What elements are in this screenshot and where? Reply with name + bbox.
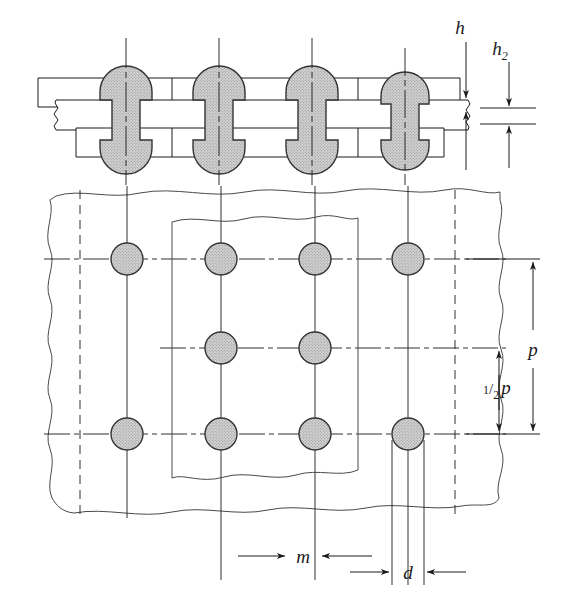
dimension-half-p-denominator: 2 [493,388,499,402]
plan-rivet-hole [111,418,143,450]
drawing-svg: h h2 [0,0,571,609]
engineering-drawing-canvas: h h2 [0,0,571,609]
plan-rivet-hole [205,418,237,450]
dimension-h2-subscript: 2 [502,49,508,63]
plan-rivet-hole [392,243,424,275]
dimension-h-label: h [455,17,465,38]
plan-rivet-hole [299,418,331,450]
plan-main-plate-outline [48,189,503,515]
plan-rivet-hole [205,332,237,364]
dimension-h2-letter: h [492,38,502,59]
plan-rivet-hole [392,418,424,450]
plan-rivet-hole [111,243,143,275]
dimension-d-label: d [403,562,413,583]
plan-rivet-hole [299,243,331,275]
dimension-m-label: m [296,546,310,567]
plan-rivet-hole [205,243,237,275]
dimension-p-label: p [526,339,538,360]
dimension-half-p-letter: p [499,377,511,398]
plan-rivet-hole [299,332,331,364]
